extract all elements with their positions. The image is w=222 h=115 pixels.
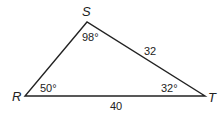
angle-r: 50° <box>40 82 57 94</box>
angle-s: 98° <box>82 31 99 43</box>
vertex-label-r: R <box>12 89 21 104</box>
angle-t: 32° <box>161 82 178 94</box>
side-rt-length: 40 <box>110 100 122 112</box>
triangle-diagram: S R T 98° 50° 32° 32 40 <box>0 0 222 115</box>
vertex-label-s: S <box>82 4 91 19</box>
side-st-length: 32 <box>144 45 156 57</box>
vertex-label-t: T <box>208 90 217 105</box>
